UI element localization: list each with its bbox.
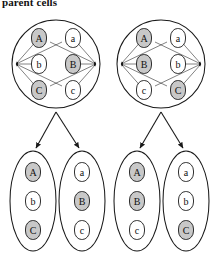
chromosome-B: B xyxy=(66,55,81,74)
chromosome-A: A xyxy=(32,29,47,48)
chromosome-label: B xyxy=(141,59,148,70)
chromosome-label: B xyxy=(134,196,141,207)
chromosome-label: c xyxy=(142,85,147,96)
chromosome-B: B xyxy=(137,55,152,74)
figure-canvas: parent cells AabBCcAaBbcCAbCaBcABcabC xyxy=(0,0,215,256)
chromosome-label: C xyxy=(36,85,43,96)
chromosome-a: a xyxy=(66,29,81,48)
chromosome-label: b xyxy=(184,196,189,207)
daughter-cell-4[interactable]: abC xyxy=(163,151,209,251)
chromosome-label: A xyxy=(140,33,148,44)
chromosome-c: c xyxy=(75,221,90,240)
division-arrow xyxy=(56,112,79,148)
chromosome-label: c xyxy=(80,225,85,236)
chromosome-b: b xyxy=(171,55,186,74)
chromosome-label: B xyxy=(79,196,86,207)
chromosome-label: b xyxy=(31,196,36,207)
chromosome-c: c xyxy=(66,81,81,100)
chromosome-C: C xyxy=(179,221,194,240)
chromosome-B: B xyxy=(130,192,145,211)
chromosome-a: a xyxy=(179,163,194,182)
chromosome-label: a xyxy=(80,167,85,178)
division-arrow xyxy=(36,112,56,148)
chromosome-label: b xyxy=(176,59,181,70)
division-arrow xyxy=(161,112,183,148)
chromosome-label: c xyxy=(135,225,140,236)
chromosome-c: c xyxy=(137,81,152,100)
meiosis-independent-assortment-diagram: AabBCcAaBbcCAbCaBcABcabC xyxy=(0,0,215,256)
chromosome-A: A xyxy=(137,29,152,48)
chromosome-label: c xyxy=(71,85,76,96)
chromosome-A: A xyxy=(130,163,145,182)
chromosome-label: C xyxy=(30,225,37,236)
chromosome-B: B xyxy=(75,192,90,211)
chromosome-C: C xyxy=(171,81,186,100)
chromosome-b: b xyxy=(32,55,47,74)
chromosome-C: C xyxy=(26,221,41,240)
daughter-cell-2[interactable]: aBc xyxy=(59,151,105,251)
chromosome-label: b xyxy=(37,59,42,70)
chromosome-label: A xyxy=(29,167,37,178)
daughter-cell-1[interactable]: AbC xyxy=(10,151,56,251)
chromosome-c: c xyxy=(130,221,145,240)
chromosome-b: b xyxy=(179,192,194,211)
chromosome-label: a xyxy=(184,167,189,178)
chromosome-label: a xyxy=(71,33,76,44)
parent-cell-left[interactable]: AabBCc xyxy=(12,20,100,108)
chromosome-A: A xyxy=(26,163,41,182)
chromosome-a: a xyxy=(75,163,90,182)
chromosome-label: C xyxy=(183,225,190,236)
daughter-cell-3[interactable]: ABc xyxy=(114,151,160,251)
chromosome-label: C xyxy=(175,85,182,96)
chromosome-C: C xyxy=(32,81,47,100)
division-arrow xyxy=(140,112,161,148)
chromosome-b: b xyxy=(26,192,41,211)
parent-cell-right[interactable]: AaBbcC xyxy=(117,20,205,108)
chromosome-a: a xyxy=(171,29,186,48)
chromosome-label: A xyxy=(35,33,43,44)
chromosome-label: a xyxy=(176,33,181,44)
chromosome-label: A xyxy=(133,167,141,178)
chromosome-label: B xyxy=(70,59,77,70)
